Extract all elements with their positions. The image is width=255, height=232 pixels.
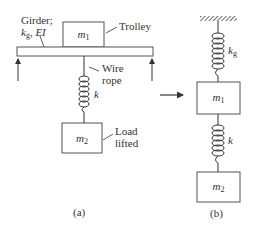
girder-spring-kg xyxy=(212,21,224,82)
caption-a: (a) xyxy=(73,206,85,218)
load-leader-line xyxy=(103,134,113,140)
mass2-label-b: m2 xyxy=(197,180,240,194)
girder-label: Girder; kg, EI xyxy=(21,14,53,42)
spring-k-label-b: k xyxy=(228,134,233,146)
load-lifted-label: Loadlifted xyxy=(115,125,138,149)
caption-b: (b) xyxy=(210,207,223,219)
wire-rope-label: Wirerope xyxy=(102,62,124,86)
load-mass-label: m2 xyxy=(62,132,102,146)
wire-spring-k-label: k xyxy=(94,88,99,100)
mass1-label-b: m1 xyxy=(197,91,240,105)
girder-ei-symbol: , EI xyxy=(30,26,46,38)
spring-kg-label: kg xyxy=(228,44,237,60)
trolley-leader-line xyxy=(106,27,117,33)
trolley-mass-label: m1 xyxy=(63,28,104,42)
rope-spring-k xyxy=(212,114,224,172)
girder-label-text: Girder; xyxy=(21,14,53,26)
wire-leader-line xyxy=(89,67,99,71)
girder-kg-symbol: kg xyxy=(21,26,30,38)
wire-rope-spring xyxy=(79,56,89,123)
fixed-ceiling-hatch xyxy=(200,16,237,21)
girder-beam xyxy=(17,47,153,56)
trolley-label: Trolley xyxy=(119,20,151,32)
